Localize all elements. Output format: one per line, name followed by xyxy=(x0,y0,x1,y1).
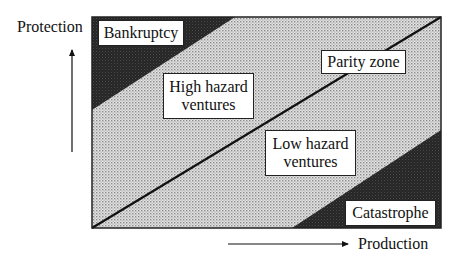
parity-zone-label-text: Parity zone xyxy=(327,53,399,71)
low-hazard-label-line1: Low hazard xyxy=(273,135,349,153)
catastrophe-label: Catastrophe xyxy=(345,200,436,226)
catastrophe-label-text: Catastrophe xyxy=(352,204,428,222)
high-hazard-label-line2: ventures xyxy=(181,96,235,114)
low-hazard-label: Low hazard ventures xyxy=(265,130,356,176)
high-hazard-label: High hazard ventures xyxy=(163,73,254,119)
parity-zone-label: Parity zone xyxy=(321,50,406,74)
y-axis-label: Protection xyxy=(17,18,83,36)
x-axis-label: Production xyxy=(358,235,428,253)
high-hazard-label-line1: High hazard xyxy=(169,78,248,96)
bankruptcy-label: Bankruptcy xyxy=(98,20,184,46)
bankruptcy-label-text: Bankruptcy xyxy=(104,24,179,42)
low-hazard-label-line2: ventures xyxy=(283,153,337,171)
